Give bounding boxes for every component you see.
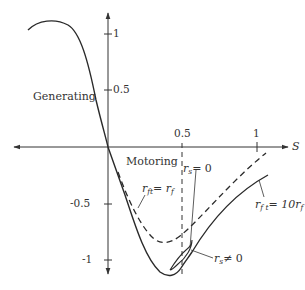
x-tick-label-1: 1 (253, 128, 260, 139)
y-tick-label-neg0.5: -0.5 (70, 198, 90, 209)
generating-label: Generating (33, 91, 96, 102)
y-tick-label-neg1: -1 (82, 254, 92, 265)
leader-rft-rf (138, 195, 145, 208)
annotation-rs-zero: rs= 0 (183, 163, 212, 176)
annotation-rft-eq-rf: rft= rf (142, 183, 174, 196)
y-tick-label-0.5: 0.5 (113, 84, 130, 95)
torque-curve-solid (28, 21, 268, 276)
y-tick-label-1: 1 (113, 28, 120, 39)
leader-rft-10rf (259, 180, 264, 197)
leader-rs-nonzero (191, 250, 213, 258)
torque-slip-diagram (0, 0, 305, 290)
torque-curve-rs-nonzero (170, 240, 192, 270)
x-axis-label: S (292, 141, 300, 152)
x-tick-label-0.5: 0.5 (174, 128, 191, 139)
annotation-rft-eq-10rf: rf t= 10rf (255, 199, 303, 212)
annotation-rs-nonzero: rs≠ 0 (214, 253, 243, 266)
leader-rs-zero (190, 170, 196, 248)
motoring-label: Motoring (126, 156, 178, 167)
